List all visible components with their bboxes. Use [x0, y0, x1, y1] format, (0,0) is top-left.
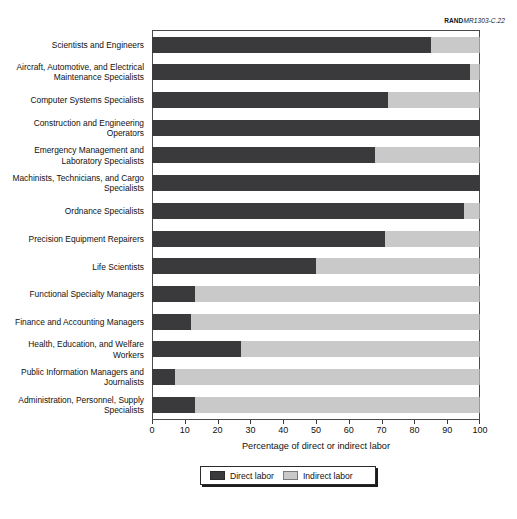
bar-segment-direct-labor	[152, 92, 388, 108]
x-axis-tick	[250, 420, 251, 424]
stacked-bar	[152, 92, 480, 108]
x-axis-tick-label: 90	[442, 425, 452, 435]
bar-segment-direct-labor	[152, 175, 480, 191]
bar-segment-direct-labor	[152, 120, 480, 136]
category-label: Aircraft, Automotive, and Electrical Mai…	[0, 62, 144, 83]
bar-segment-direct-labor	[152, 147, 375, 163]
bar-segment-indirect-labor	[191, 314, 480, 330]
stacked-bar	[152, 175, 480, 191]
category-label: Life Scientists	[0, 262, 144, 272]
x-axis-tick	[185, 420, 186, 424]
x-axis-tick-label: 40	[278, 425, 288, 435]
category-label: Finance and Accounting Managers	[0, 317, 144, 327]
bar-segment-direct-labor	[152, 397, 195, 413]
bar-segment-direct-labor	[152, 231, 385, 247]
chart-legend: Direct labor Indirect labor	[200, 466, 376, 485]
bar-row	[152, 197, 480, 225]
x-axis-tick-label: 60	[344, 425, 354, 435]
category-label: Administration, Personnel, Supply Specia…	[0, 395, 144, 416]
x-axis-tick-labels: 0102030405060708090100	[152, 425, 480, 439]
x-axis-tick-label: 70	[377, 425, 387, 435]
category-label: Emergency Management and Laboratory Spec…	[0, 145, 144, 166]
bar-segment-direct-labor	[152, 64, 470, 80]
bar-segment-indirect-labor	[175, 369, 480, 385]
bar-row	[152, 336, 480, 364]
category-label: Functional Specialty Managers	[0, 289, 144, 299]
x-axis-tick	[447, 420, 448, 424]
stacked-bar	[152, 341, 480, 357]
bar-segment-indirect-labor	[385, 231, 480, 247]
stacked-bar	[152, 314, 480, 330]
stacked-bar	[152, 286, 480, 302]
category-label: Computer Systems Specialists	[0, 95, 144, 105]
category-label: Public Information Managers and Journali…	[0, 367, 144, 388]
bar-segment-indirect-labor	[464, 203, 480, 219]
stacked-bar	[152, 37, 480, 53]
category-label: Scientists and Engineers	[0, 40, 144, 50]
stacked-bar	[152, 369, 480, 385]
category-label: Precision Equipment Repairers	[0, 234, 144, 244]
x-axis-tick-label: 30	[245, 425, 255, 435]
bar-segment-direct-labor	[152, 369, 175, 385]
bar-segment-indirect-labor	[241, 341, 480, 357]
stacked-bar	[152, 147, 480, 163]
rand-brand-text: RAND	[444, 17, 463, 24]
stacked-bar	[152, 397, 480, 413]
bar-segment-direct-labor	[152, 37, 431, 53]
x-axis-tick	[218, 420, 219, 424]
stacked-bar	[152, 120, 480, 136]
bar-row	[152, 114, 480, 142]
bar-row	[152, 308, 480, 336]
x-axis-tick	[152, 420, 153, 424]
bar-row	[152, 364, 480, 392]
figure-container: RANDMR1303-C.22 Scientists and Engineers…	[0, 0, 517, 519]
bar-segment-direct-labor	[152, 258, 316, 274]
x-axis-tick-label: 50	[311, 425, 321, 435]
x-axis-tick	[283, 420, 284, 424]
category-axis-labels: Scientists and EngineersAircraft, Automo…	[0, 31, 148, 419]
legend-swatch-direct-icon	[210, 471, 225, 480]
category-label: Construction and Engineering Operators	[0, 118, 144, 139]
stacked-bar	[152, 231, 480, 247]
bar-segment-indirect-labor	[316, 258, 480, 274]
bar-segment-indirect-labor	[375, 147, 480, 163]
bar-segment-indirect-labor	[195, 286, 480, 302]
bar-segment-indirect-labor	[195, 397, 480, 413]
x-axis-tick-label: 10	[180, 425, 190, 435]
x-axis-tick-label: 100	[472, 425, 487, 435]
bar-segment-indirect-labor	[431, 37, 480, 53]
rand-document-number: MR1303-C.22	[463, 17, 505, 24]
category-label: Machinists, Technicians, and Cargo Speci…	[0, 173, 144, 194]
stacked-bar	[152, 203, 480, 219]
stacked-bar	[152, 64, 480, 80]
bar-segment-direct-labor	[152, 341, 241, 357]
x-axis-tick	[349, 420, 350, 424]
bar-row	[152, 225, 480, 253]
bar-row	[152, 170, 480, 198]
bar-row	[152, 142, 480, 170]
x-axis-tick-label: 80	[409, 425, 419, 435]
legend-label-direct: Direct labor	[230, 471, 274, 481]
bars-container	[152, 31, 480, 419]
bar-row	[152, 253, 480, 281]
rand-source-id: RANDMR1303-C.22	[444, 17, 505, 24]
x-axis-tick	[414, 420, 415, 424]
stacked-bar	[152, 258, 480, 274]
legend-label-indirect: Indirect labor	[303, 471, 353, 481]
category-label: Ordnance Specialists	[0, 206, 144, 216]
x-axis-tick	[316, 420, 317, 424]
x-axis-tick	[382, 420, 383, 424]
bar-segment-direct-labor	[152, 314, 191, 330]
x-axis-tick-label: 20	[213, 425, 223, 435]
legend-swatch-indirect-icon	[283, 471, 298, 480]
x-axis-tick	[479, 420, 480, 424]
bar-row	[152, 391, 480, 419]
bar-segment-direct-labor	[152, 203, 464, 219]
bar-row	[152, 59, 480, 87]
category-label: Health, Education, and Welfare Workers	[0, 339, 144, 360]
bar-row	[152, 280, 480, 308]
bar-segment-indirect-labor	[470, 64, 480, 80]
legend-item-indirect-labor: Indirect labor	[283, 471, 353, 481]
bar-row	[152, 86, 480, 114]
x-axis-title: Percentage of direct or indirect labor	[152, 441, 480, 451]
